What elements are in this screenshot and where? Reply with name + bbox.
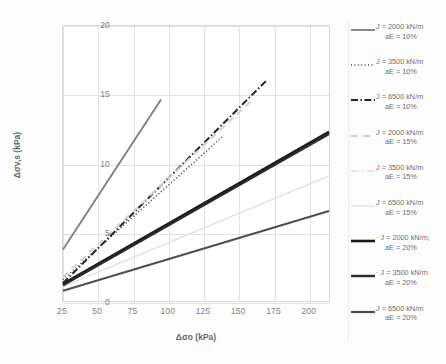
legend-label-line1: · J = 3500 kN/m — [376, 268, 428, 277]
legend-label-line1: · J = 2000 kN/m, — [376, 233, 430, 242]
legend-item-1[interactable]: J = 3500 kN/maE = 10% — [351, 57, 444, 92]
legend-swatch-icon — [351, 23, 375, 37]
x-tick-label: 75 — [113, 306, 153, 316]
legend-item-2[interactable]: J = 6500 kN/maE = 10% — [351, 92, 444, 127]
x-tick-label: 25 — [42, 306, 82, 316]
legend-swatch-icon — [351, 305, 375, 319]
chart-legend: J = 2000 kN/maE = 10%J = 3500 kN/maE = 1… — [348, 22, 444, 342]
series-line-7 — [63, 134, 329, 285]
y-tick-label: 5 — [70, 228, 110, 238]
legend-label-line1: J = 3500 kN/m — [376, 57, 423, 66]
legend-label-line2: aE = 20% — [376, 278, 428, 288]
legend-item-8[interactable]: J = 6500 kN/maE = 20% — [351, 304, 444, 339]
legend-label: J = 3500 kN/maE = 15% — [375, 163, 423, 182]
legend-label-line2: aE = 20% — [376, 243, 430, 253]
x-tick-label: 150 — [218, 306, 258, 316]
legend-swatch-icon — [351, 164, 375, 178]
x-tick-label: 100 — [148, 306, 188, 316]
legend-label: J = 3500 kN/maE = 10% — [375, 57, 423, 76]
series-line-8 — [63, 211, 329, 291]
x-tick-label: 175 — [254, 306, 294, 316]
legend-label: J = 2000 kN/maE = 10% — [375, 22, 423, 41]
legend-label-line1: J = 3500 kN/m — [376, 163, 423, 172]
legend-item-6[interactable]: · J = 2000 kN/m,aE = 20% — [351, 233, 444, 268]
legend-item-5[interactable]: J = 6500 kN/maE = 15% — [351, 198, 444, 233]
x-tick-label: 50 — [77, 306, 117, 316]
legend-label-line2: aE = 15% — [376, 172, 423, 182]
y-axis-title: Δσv,s (kPa) — [12, 105, 22, 205]
legend-label-line1: J = 6500 kN/m — [376, 198, 423, 207]
legend-label-line1: J = 6500 kN/m — [376, 304, 423, 313]
legend-swatch-icon — [351, 129, 375, 143]
y-tick-label: 15 — [70, 89, 110, 99]
x-axis-title: Δσo (kPa) — [62, 332, 330, 342]
y-tick-label: 10 — [70, 159, 110, 169]
legend-item-0[interactable]: J = 2000 kN/maE = 10% — [351, 22, 444, 57]
series-line-3 — [63, 100, 252, 277]
legend-label-line2: aE = 10% — [376, 32, 423, 42]
y-tick-label: 20 — [70, 20, 110, 30]
legend-item-3[interactable]: J = 2000 kN/maE = 15% — [351, 128, 444, 163]
legend-item-4[interactable]: J = 3500 kN/maE = 15% — [351, 163, 444, 198]
legend-label-line2: aE = 15% — [376, 137, 423, 147]
legend-swatch-icon — [351, 199, 375, 213]
legend-label-line1: J = 6500 kN/m — [376, 92, 423, 101]
x-tick-label: 125 — [183, 306, 223, 316]
legend-swatch-icon — [351, 234, 375, 248]
x-tick-label: 200 — [289, 306, 329, 316]
legend-label: J = 6500 kN/maE = 20% — [375, 304, 423, 323]
legend-label-line2: aE = 10% — [376, 67, 423, 77]
legend-label: J = 2000 kN/maE = 15% — [375, 128, 423, 147]
legend-label: · J = 2000 kN/m,aE = 20% — [375, 233, 430, 252]
chart-container: 05101520 255075100125150175200 Δσo (kPa)… — [0, 0, 446, 364]
legend-item-7[interactable]: · J = 3500 kN/maE = 20% — [351, 268, 444, 303]
legend-swatch-icon — [351, 58, 375, 72]
legend-swatch-icon — [351, 93, 375, 107]
legend-label-line2: aE = 10% — [376, 102, 423, 112]
legend-label-line1: J = 2000 kN/m — [376, 128, 423, 137]
legend-label: J = 6500 kN/maE = 15% — [375, 198, 423, 217]
legend-label-line2: aE = 15% — [376, 208, 423, 218]
legend-label: J = 6500 kN/maE = 10% — [375, 92, 423, 111]
legend-label-line1: J = 2000 kN/m — [376, 22, 423, 31]
legend-swatch-icon — [351, 269, 375, 283]
series-line-6 — [63, 132, 329, 284]
series-line-2 — [63, 81, 266, 283]
legend-label-line2: aE = 20% — [376, 313, 423, 323]
legend-label: · J = 3500 kN/maE = 20% — [375, 268, 428, 287]
